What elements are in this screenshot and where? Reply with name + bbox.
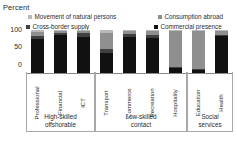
bar-slot bbox=[26, 30, 49, 74]
bar-segment bbox=[123, 37, 136, 74]
y-axis-tick-0: 0 bbox=[18, 61, 22, 68]
stacked-bar[interactable] bbox=[77, 30, 90, 74]
group-box-social-services: Socialservices bbox=[187, 72, 233, 132]
legend-item-consumption-abroad[interactable]: Consumption abroad bbox=[158, 14, 223, 20]
stacked-bar[interactable] bbox=[100, 30, 113, 74]
bar-slot bbox=[164, 30, 187, 74]
bar-series-container bbox=[26, 30, 233, 74]
group-caption-line1: Social bbox=[188, 113, 232, 121]
group-caption-high-skilled-offshorable: High-skilledoffshorable bbox=[27, 113, 94, 128]
legend-swatch-commercial-presence bbox=[154, 25, 158, 29]
bar-segment bbox=[54, 35, 67, 74]
bar-slot bbox=[118, 30, 141, 74]
legend-swatch-consumption-abroad bbox=[158, 15, 162, 19]
chart-legend: Movement of natural persons Consumption … bbox=[22, 12, 235, 32]
bar-slot bbox=[187, 30, 210, 74]
legend-swatch-cross-border-supply bbox=[26, 25, 30, 29]
legend-label-movement-of-natural-persons: Movement of natural persons bbox=[35, 14, 117, 20]
y-axis-tick-50: 50 bbox=[14, 43, 22, 50]
group-caption-low-skilled-contact: Low-skilledcontact bbox=[96, 113, 186, 128]
bar-segment bbox=[77, 37, 90, 74]
bar-segment bbox=[192, 31, 205, 69]
group-box-high-skilled-offshorable: High-skilledoffshorable bbox=[26, 72, 95, 132]
stacked-bar[interactable] bbox=[123, 30, 136, 74]
bar-segment bbox=[215, 36, 228, 74]
bar-slot bbox=[49, 30, 72, 74]
group-caption-social-services: Socialservices bbox=[188, 113, 232, 128]
group-caption-line2: services bbox=[188, 121, 232, 129]
group-box-low-skilled-contact: Low-skilledcontact bbox=[95, 72, 187, 132]
bar-segment bbox=[100, 53, 113, 74]
y-axis: 100 50 0 bbox=[0, 26, 25, 78]
plot-area bbox=[26, 30, 233, 74]
legend-label-consumption-abroad: Consumption abroad bbox=[165, 14, 223, 20]
stacked-bar[interactable] bbox=[146, 30, 159, 74]
bar-slot bbox=[210, 30, 233, 74]
group-caption-line1: High-skilled bbox=[27, 113, 94, 121]
bar-segment bbox=[31, 39, 44, 74]
group-caption-line2: offshorable bbox=[27, 121, 94, 129]
bar-slot bbox=[141, 30, 164, 74]
bar-segment bbox=[100, 33, 113, 50]
bar-slot bbox=[95, 30, 118, 74]
bar-slot bbox=[72, 30, 95, 74]
legend-swatch-movement-of-natural-persons bbox=[28, 15, 32, 19]
stacked-bar[interactable] bbox=[169, 30, 182, 74]
legend-row-top: Movement of natural persons Consumption … bbox=[22, 12, 235, 22]
stacked-bar[interactable] bbox=[31, 30, 44, 74]
y-axis-tick-100: 100 bbox=[10, 26, 22, 33]
stacked-bar-chart: Percent Movement of natural persons Cons… bbox=[0, 0, 237, 145]
group-caption-line1: Low-skilled bbox=[96, 113, 186, 121]
stacked-bar[interactable] bbox=[192, 30, 205, 74]
stacked-bar[interactable] bbox=[215, 30, 228, 74]
bar-segment bbox=[169, 31, 182, 67]
y-axis-unit-label: Percent bbox=[3, 3, 30, 12]
group-caption-line2: contact bbox=[96, 121, 186, 129]
legend-item-movement-of-natural-persons[interactable]: Movement of natural persons bbox=[28, 14, 158, 20]
bar-segment bbox=[146, 38, 159, 74]
stacked-bar[interactable] bbox=[54, 30, 67, 74]
